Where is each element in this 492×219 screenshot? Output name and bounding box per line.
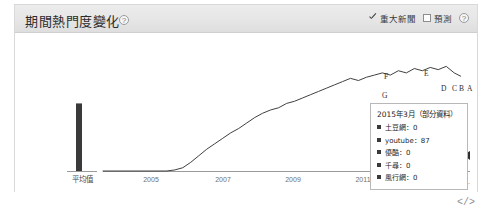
x-tick-2005: 2005 xyxy=(143,176,159,183)
tooltip-row: 優酷：0 xyxy=(377,147,461,157)
tooltip-row: 風行網：0 xyxy=(377,172,461,182)
series-swatch-icon xyxy=(377,125,381,129)
checkbox-major-news[interactable]: 重大新聞 xyxy=(368,12,416,24)
tooltip-row: 千尋：0 xyxy=(377,160,461,170)
checkbox-major-news-label: 重大新聞 xyxy=(380,12,416,24)
tooltip-row-text: 優酷：0 xyxy=(385,147,410,157)
average-value-bar[interactable] xyxy=(76,103,82,171)
checkbox-checked-icon[interactable] xyxy=(368,14,377,22)
tooltip-row-text: youtube：87 xyxy=(385,135,430,145)
series-swatch-icon xyxy=(377,138,381,142)
info-circle-icon[interactable]: ? xyxy=(119,15,129,25)
checkbox-forecast-label: 預測 xyxy=(434,12,452,24)
series-swatch-icon xyxy=(377,150,381,154)
tooltip-row-text: 土豆網：0 xyxy=(385,122,417,132)
tooltip-row: youtube：87 xyxy=(377,135,461,145)
embed-code-icon[interactable]: </> xyxy=(457,197,475,208)
page-title: 期間熱門度變化 xyxy=(25,11,120,30)
series-swatch-icon xyxy=(377,175,381,179)
annotation-E[interactable]: E xyxy=(424,69,429,78)
tooltip-row-text: 千尋：0 xyxy=(385,160,410,170)
x-tick-2007: 2007 xyxy=(215,176,231,183)
annotation-B[interactable]: B xyxy=(459,84,464,93)
annotation-D[interactable]: D xyxy=(441,84,447,93)
checkbox-unchecked-icon[interactable] xyxy=(423,14,431,22)
annotation-F[interactable]: F xyxy=(384,72,388,81)
annotation-A[interactable]: A xyxy=(467,84,473,93)
header-info-circle-icon[interactable]: ? xyxy=(459,13,469,23)
x-tick-average: 平均值 xyxy=(72,174,94,184)
trends-chart-panel: 期間熱門度變化 ? 重大新聞 預測 ? xyxy=(14,4,478,192)
x-tick-2009: 2009 xyxy=(285,176,301,183)
chart-tooltip: 2015年3月（部分資料） 土豆網：0 youtube：87 優酷：0 千尋：0… xyxy=(370,103,468,190)
checkbox-forecast[interactable]: 預測 xyxy=(423,12,452,24)
tooltip-title: 2015年3月（部分資料） xyxy=(377,108,461,119)
header-controls: 重大新聞 預測 ? xyxy=(368,12,469,24)
x-tick-2011: 2011 xyxy=(355,176,370,183)
tooltip-row: 土豆網：0 xyxy=(377,122,461,132)
tooltip-row-text: 風行網：0 xyxy=(385,172,417,182)
panel-header: 期間熱門度變化 ? 重大新聞 預測 ? xyxy=(15,5,477,33)
series-swatch-icon xyxy=(377,163,381,167)
chart-plot-area: 平均值 2005 2007 2009 2011 2... F G E D C B… xyxy=(15,34,477,192)
annotation-G[interactable]: G xyxy=(382,91,388,100)
annotation-C[interactable]: C xyxy=(452,84,457,93)
